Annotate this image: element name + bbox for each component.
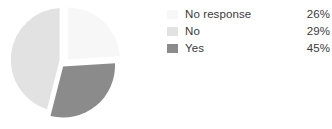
legend-swatch-no	[167, 27, 178, 36]
pie-slice-no-response-path	[68, 7, 120, 59]
chart-legend: No response 26% No 29% Yes 45%	[167, 6, 330, 57]
legend-value-no: 29%	[298, 23, 330, 40]
pie-slice-no	[11, 8, 60, 109]
pie-slice-no-path	[11, 8, 60, 109]
legend-item-no-response[interactable]: No response 26%	[167, 6, 330, 23]
legend-value-yes: 45%	[298, 40, 330, 57]
legend-label-no: No	[185, 23, 298, 40]
pie-plot-area	[0, 0, 132, 129]
pie-slice-yes	[51, 63, 116, 117]
pie-slice-no-response	[68, 7, 120, 59]
legend-value-no-response: 26%	[298, 6, 330, 23]
pie-slice-yes-path	[51, 63, 116, 117]
legend-swatch-no-response	[167, 10, 178, 19]
pie-svg	[0, 0, 132, 129]
legend-swatch-yes	[167, 44, 178, 53]
legend-label-no-response: No response	[185, 6, 298, 23]
legend-label-yes: Yes	[185, 40, 298, 57]
legend-item-yes[interactable]: Yes 45%	[167, 40, 330, 57]
pie-chart: No response 26% No 29% Yes 45%	[0, 0, 332, 129]
legend-item-no[interactable]: No 29%	[167, 23, 330, 40]
